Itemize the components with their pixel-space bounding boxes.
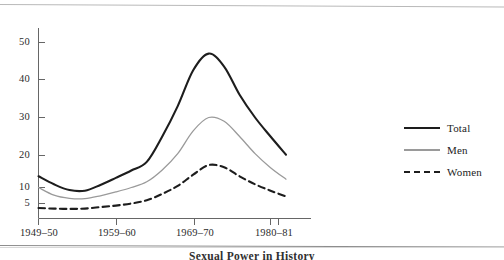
- legend-label-women: Women: [440, 166, 482, 178]
- y-tick-label-40: 40: [4, 74, 30, 85]
- legend-item-men: Men: [404, 139, 500, 161]
- y-tick-label-10: 10: [4, 182, 30, 193]
- y-tick-label-5: 5: [4, 198, 30, 209]
- legend-label-men: Men: [440, 144, 468, 156]
- chart-legend: Total Men Women: [404, 117, 500, 183]
- figure-container: 50 40 30 20 10 5 1949–50 1959–60 1969–70…: [0, 0, 504, 260]
- series-layer: [39, 54, 287, 209]
- legend-item-total: Total: [404, 117, 500, 139]
- series-line-women: [39, 165, 287, 209]
- legend-swatch-men-icon: [404, 144, 440, 156]
- x-tick-label-1969-70: 1969–70: [164, 228, 226, 239]
- figure-caption: Sexual Power in History: [0, 250, 504, 260]
- x-tick-label-1959-60: 1959–60: [86, 228, 148, 239]
- legend-label-total: Total: [440, 122, 470, 134]
- series-line-men: [39, 117, 287, 199]
- y-tick-label-30: 30: [4, 112, 30, 123]
- x-tick-label-1980-81: 1980–81: [243, 228, 305, 239]
- y-tick-label-50: 50: [4, 37, 30, 48]
- bottom-rule-secondary: [0, 247, 504, 248]
- legend-swatch-women-icon: [404, 166, 440, 178]
- legend-item-women: Women: [404, 161, 500, 183]
- legend-swatch-total-icon: [404, 122, 440, 134]
- y-tick-label-20: 20: [4, 150, 30, 161]
- x-tick-marks: [39, 219, 279, 226]
- axes-group: [39, 28, 312, 225]
- x-tick-label-1949-50: 1949–50: [8, 228, 70, 239]
